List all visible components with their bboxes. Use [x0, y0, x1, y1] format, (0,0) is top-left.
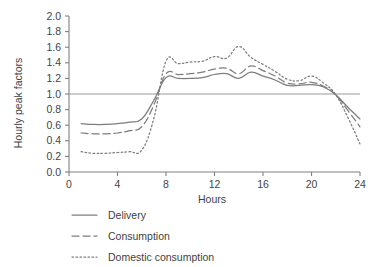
x-tick-label: 8 — [163, 178, 169, 190]
y-tick-label: 0.2 — [46, 150, 61, 162]
y-tick-label: 0.0 — [46, 166, 61, 178]
y-tick-label: 1.0 — [46, 88, 61, 100]
x-tick-label: 20 — [306, 178, 318, 190]
y-tick-label: 1.8 — [46, 25, 61, 37]
y-axis-title: Hourly peak factors — [12, 58, 24, 148]
chart-figure: 0.00.20.40.60.81.01.21.41.61.82.0 048121… — [0, 0, 374, 267]
x-axis-title: Hours — [198, 193, 226, 205]
y-tick-label: 0.6 — [46, 119, 61, 131]
y-tick-label: 0.4 — [46, 134, 61, 146]
y-tick-label: 2.0 — [46, 10, 61, 22]
x-tick-label: 12 — [209, 178, 221, 190]
y-tick-label: 0.8 — [46, 103, 61, 115]
y-tick-label: 1.4 — [46, 56, 61, 68]
y-tick-label: 1.6 — [46, 41, 61, 53]
legend-label: Delivery — [108, 209, 147, 221]
x-tick-label: 16 — [257, 178, 269, 190]
x-tick-label: 0 — [66, 178, 72, 190]
hourly-peak-factors-line-chart: 0.00.20.40.60.81.01.21.41.61.82.0 048121… — [0, 0, 374, 267]
legend-label: Consumption — [108, 230, 170, 242]
y-tick-label: 1.2 — [46, 72, 61, 84]
x-tick-label: 4 — [115, 178, 121, 190]
legend-label: Domestic consumption — [108, 251, 214, 263]
x-tick-label: 24 — [354, 178, 366, 190]
